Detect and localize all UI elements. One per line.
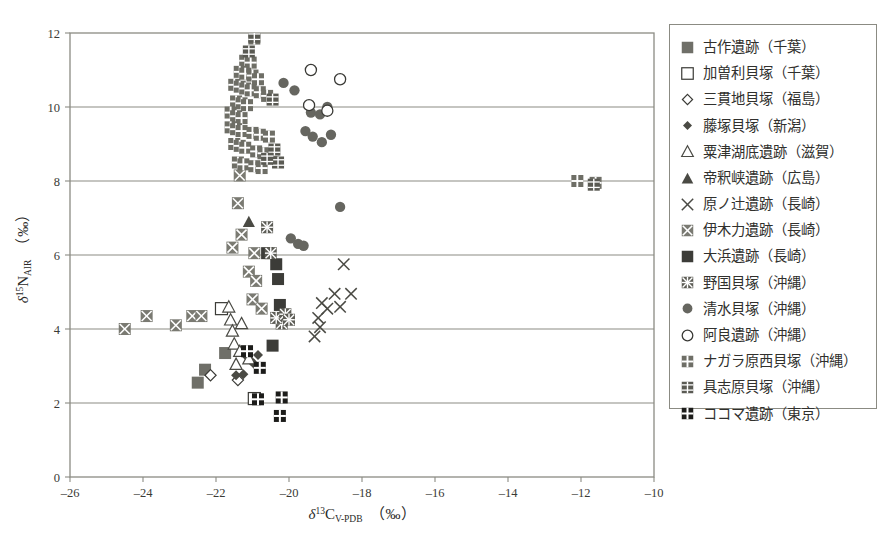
marker-filled-circle: [335, 202, 345, 212]
marker-x-in-square: [236, 229, 248, 241]
y-tick-label: 0: [54, 471, 60, 485]
legend-item-label: 古作遺跡（千葉）: [703, 40, 815, 54]
legend-item-4[interactable]: 粟津湖底遺跡（滋賀）: [679, 139, 869, 165]
series-4: [223, 301, 255, 370]
marker-plus-square-light: [241, 99, 253, 111]
marker-grid-square: [272, 157, 284, 169]
x-tick-label: –20: [279, 486, 299, 500]
y-tick-label: 4: [54, 323, 61, 337]
legend-item-7[interactable]: 伊木力遺跡（長崎）: [679, 217, 869, 243]
marker-open-triangle: [225, 314, 237, 325]
open-diamond-icon: [679, 91, 696, 108]
legend-item-13[interactable]: 具志原貝塚（沖縄）: [679, 374, 869, 400]
x-tick-label: –24: [133, 486, 154, 500]
y-tick-label: 8: [54, 175, 60, 189]
legend-item-label: 具志原貝塚（沖縄）: [703, 380, 829, 394]
legend-item-14[interactable]: ココマ遺跡（東京）: [679, 401, 869, 427]
marker-filled-square: [192, 377, 204, 389]
marker-plus-square-light: [263, 131, 275, 143]
filled-circle-icon: [679, 300, 696, 317]
legend-item-8[interactable]: 大浜遺跡（長崎）: [679, 244, 869, 270]
y-axis-title: δ15NAIR （‰）: [15, 207, 33, 304]
marker-x-in-square: [232, 197, 244, 209]
legend-item-6[interactable]: 原ノ辻遺跡（長崎）: [679, 191, 869, 217]
x-tick-label: –14: [498, 486, 519, 500]
marker-dark-square: [682, 251, 694, 263]
marker-plus-square-dark: [252, 393, 264, 405]
filled-square-icon: [679, 39, 696, 56]
legend-item-12[interactable]: ナガラ原西貝塚（沖縄）: [679, 348, 869, 374]
series-6: [309, 259, 357, 343]
marker-asterisk-square: [682, 277, 694, 289]
marker-filled-circle: [317, 137, 327, 147]
marker-open-diamond: [682, 94, 692, 104]
legend-box: 古作遺跡（千葉）加曽利貝塚（千葉）三貫地貝塚（福島）藤塚貝塚（新潟）粟津湖底遺跡…: [669, 24, 877, 409]
legend-item-1[interactable]: 加曽利貝塚（千葉）: [679, 60, 869, 86]
x-axis-title: δ13CV-PDB （‰）: [308, 506, 415, 524]
grid-square-icon: [679, 379, 696, 396]
marker-x-in-square: [256, 303, 268, 315]
series-7: [119, 169, 268, 335]
legend-item-3[interactable]: 藤塚貝塚（新潟）: [679, 113, 869, 139]
marker-open-circle: [682, 330, 693, 341]
marker-x-in-square: [170, 319, 182, 331]
x-tick-label: –12: [571, 486, 591, 500]
marker-filled-circle: [300, 126, 310, 136]
legend-item-0[interactable]: 古作遺跡（千葉）: [679, 34, 869, 60]
marker-x-in-square: [234, 169, 246, 181]
marker-plus-square-dark: [274, 410, 286, 422]
marker-grid-square: [682, 382, 694, 394]
x-tick-label: –16: [425, 486, 445, 500]
legend-item-5[interactable]: 帝釈峡遺跡（広島）: [679, 165, 869, 191]
marker-dark-square: [270, 258, 282, 270]
y-tick-label: 2: [54, 397, 60, 411]
legend-item-11[interactable]: 阿良遺跡（沖縄）: [679, 322, 869, 348]
marker-plus-square-dark: [276, 391, 288, 403]
marker-plus-square-light: [252, 73, 264, 85]
marker-plus-square-light: [236, 125, 248, 137]
data-points: [119, 31, 602, 422]
y-tick-label: 12: [48, 27, 61, 41]
marker-grid-square: [588, 179, 600, 191]
marker-cross-x: [682, 199, 693, 210]
marker-asterisk-square: [283, 314, 295, 326]
marker-plus-square-light: [245, 57, 257, 69]
legend-item-label: 大浜遺跡（長崎）: [703, 249, 815, 263]
marker-dark-square: [272, 273, 284, 285]
legend-item-label: 粟津湖底遺跡（滋賀）: [703, 145, 843, 159]
legend-item-2[interactable]: 三貫地貝塚（福島）: [679, 86, 869, 112]
marker-asterisk-square: [265, 247, 277, 259]
marker-asterisk-square: [261, 221, 273, 233]
marker-filled-circle: [298, 241, 308, 251]
marker-open-circle: [304, 100, 315, 111]
legend-item-label: 伊木力遺跡（長崎）: [703, 223, 829, 237]
marker-plus-square-dark: [682, 408, 694, 420]
marker-open-square: [682, 68, 694, 80]
marker-x-in-square: [682, 225, 694, 237]
legend-item-9[interactable]: 野国貝塚（沖縄）: [679, 270, 869, 296]
marker-x-in-square: [119, 323, 131, 335]
open-square-icon: [679, 65, 696, 82]
marker-x-in-square: [141, 310, 153, 322]
marker-filled-circle: [326, 130, 336, 140]
filled-triangle-icon: [679, 170, 696, 187]
plus-square-light-icon: [679, 353, 696, 370]
marker-filled-circle: [278, 78, 288, 88]
marker-filled-diamond: [683, 121, 692, 130]
marker-plus-square-dark: [254, 362, 266, 374]
marker-filled-triangle: [682, 172, 694, 183]
marker-x-in-square: [248, 247, 260, 259]
marker-x-in-square: [195, 310, 207, 322]
marker-open-triangle: [682, 146, 694, 157]
marker-filled-diamond: [253, 350, 263, 360]
marker-filled-triangle: [243, 216, 255, 227]
legend-item-label: 藤塚貝塚（新潟）: [703, 119, 815, 133]
series-14: [241, 345, 288, 422]
marker-open-circle: [335, 74, 346, 85]
series-0: [192, 347, 231, 389]
marker-grid-square: [261, 153, 273, 165]
marker-plus-square-light: [236, 112, 248, 124]
marker-open-circle: [322, 105, 333, 116]
legend-item-label: 清水貝塚（沖縄）: [703, 302, 815, 316]
legend-item-10[interactable]: 清水貝塚（沖縄）: [679, 296, 869, 322]
